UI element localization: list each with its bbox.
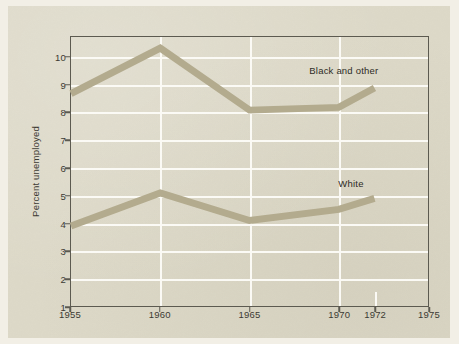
x-axis-tick-label: 1972 [364, 309, 386, 320]
y-axis-title: Percent unemployed [30, 36, 44, 307]
y-axis-tick-label: 6 [46, 163, 66, 174]
y-axis-tick-label: 3 [46, 246, 66, 257]
series-lines [71, 37, 428, 306]
x-axis-tick-labels: 195519601965197019721975 [70, 309, 429, 327]
x-axis-tick-label: 1960 [149, 309, 171, 320]
y-axis-tick-label: 8 [46, 107, 66, 118]
y-axis-tick-label: 5 [46, 190, 66, 201]
x-axis-tick-label: 1975 [418, 309, 440, 320]
y-axis-tick-labels: 12345678910 [46, 36, 66, 307]
series-label-0: Black and other [309, 65, 378, 76]
series-line-0 [71, 48, 374, 110]
x-axis-tick-label: 1965 [239, 309, 261, 320]
series-label-1: White [338, 177, 363, 188]
x-axis-tick-label: 1970 [328, 309, 350, 320]
chart-card: Percent unemployed 12345678910 Black and… [8, 6, 450, 338]
plot-area: Black and otherWhite [70, 36, 429, 307]
y-axis-tick-label: 2 [46, 274, 66, 285]
x-axis-tick-label: 1955 [59, 309, 81, 320]
y-axis-tick-label: 4 [46, 218, 66, 229]
y-axis-tick-label: 7 [46, 135, 66, 146]
y-axis-tick-label: 9 [46, 79, 66, 90]
y-axis-tick-label: 10 [46, 51, 66, 62]
figure-canvas: Percent unemployed 12345678910 Black and… [0, 0, 459, 344]
series-line-1 [71, 193, 374, 226]
